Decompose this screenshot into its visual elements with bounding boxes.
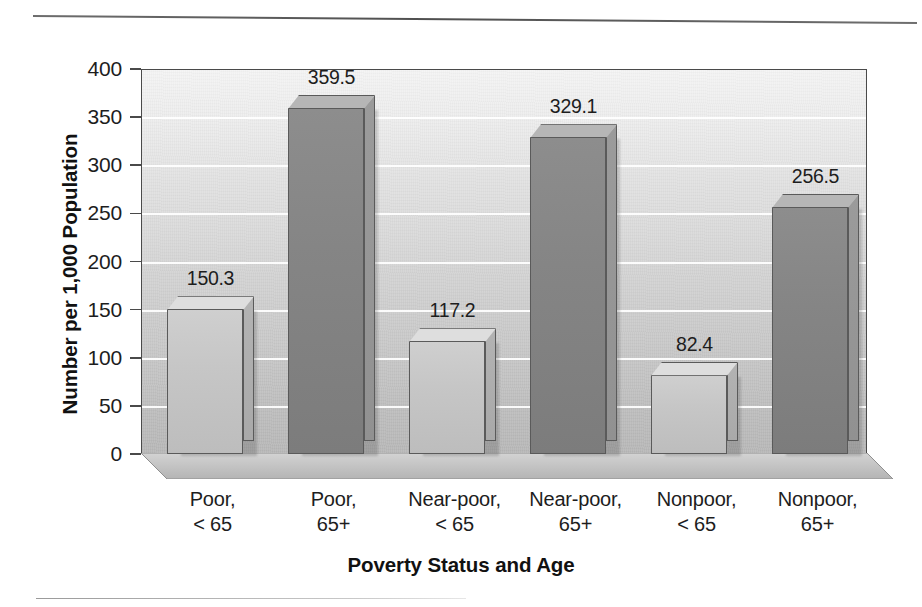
y-tick-mark (130, 453, 141, 455)
bar-top-face (772, 194, 859, 208)
y-tick-label: 100 (62, 347, 122, 368)
bar-side-face (243, 296, 254, 441)
bar-front-face (288, 108, 364, 454)
bar-top-face (288, 95, 375, 109)
y-tick-mark (130, 261, 141, 263)
y-tick-mark (130, 164, 141, 166)
figure-container: Number per 1,000 Population 050100150200… (0, 0, 922, 607)
bar-front-face (167, 309, 243, 454)
top-rule-divider (33, 15, 917, 24)
y-tick-label: 50 (62, 395, 122, 416)
x-axis-category-label: Nonpoor,65+ (743, 487, 893, 537)
bar-side-face (606, 124, 617, 441)
bar-side-face (485, 328, 496, 441)
bar-column (530, 124, 617, 454)
bottom-rule-divider (36, 598, 466, 599)
bar-value-label: 117.2 (408, 301, 498, 321)
bar-front-face (409, 341, 485, 454)
floor-polygon (141, 453, 893, 479)
y-tick-label: 0 (62, 443, 122, 464)
bar-value-label: 329.1 (529, 97, 619, 117)
y-tick-label: 350 (62, 106, 122, 127)
chart-floor (141, 453, 893, 479)
gridline (142, 262, 866, 264)
bar-top-face (530, 124, 617, 138)
y-tick-mark (130, 68, 141, 70)
bar-front-face (772, 207, 848, 454)
y-tick-label: 250 (62, 202, 122, 223)
y-tick-mark (130, 309, 141, 311)
gridline (142, 213, 866, 215)
bar-top-face (651, 362, 738, 376)
bar-front-face (651, 375, 727, 454)
y-tick-mark (130, 116, 141, 118)
bar-top-face (409, 328, 496, 342)
bar-value-label: 150.3 (166, 269, 256, 289)
y-tick-mark (130, 405, 141, 407)
bar-value-label: 256.5 (771, 167, 861, 187)
y-tick-mark (130, 357, 141, 359)
x-label-line-age: 65+ (743, 512, 893, 537)
x-label-line-status: Nonpoor, (743, 487, 893, 512)
bar-column (288, 95, 375, 454)
bar-side-face (848, 194, 859, 441)
gridline (142, 165, 866, 167)
bar-front-face (530, 137, 606, 454)
y-tick-label: 200 (62, 251, 122, 272)
y-tick-label: 300 (62, 154, 122, 175)
x-axis-title: Poverty Status and Age (0, 553, 922, 577)
bar-value-label: 359.5 (287, 68, 377, 88)
y-tick-mark (130, 213, 141, 215)
bar-top-face (167, 296, 254, 310)
bar-column (651, 362, 738, 454)
gridline (142, 117, 866, 119)
bar-column (772, 194, 859, 454)
y-tick-label: 400 (62, 58, 122, 79)
bar-side-face (364, 95, 375, 441)
bar-column (167, 296, 254, 454)
bar-value-label: 82.4 (650, 335, 740, 355)
bar-column (409, 328, 496, 454)
y-tick-label: 150 (62, 299, 122, 320)
